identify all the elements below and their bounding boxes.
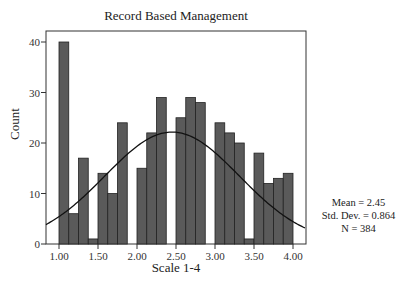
histogram-bar xyxy=(69,214,79,244)
histogram-plot: 010203040 1.001.502.002.503.003.504.00 xyxy=(0,0,407,288)
y-tick-label: 20 xyxy=(29,137,41,149)
histogram-bar xyxy=(118,123,128,244)
x-tick-label: 1.00 xyxy=(49,250,69,262)
n-stat: N = 384 xyxy=(310,222,407,235)
y-tick-label: 40 xyxy=(29,36,41,48)
x-tick-label: 1.50 xyxy=(88,250,108,262)
histogram-bar xyxy=(264,183,274,244)
histogram-bar xyxy=(79,158,89,244)
histogram-bar xyxy=(176,118,186,244)
histogram-bar xyxy=(196,103,206,244)
y-tick-label: 10 xyxy=(29,188,41,200)
y-tick-label: 30 xyxy=(29,87,41,99)
x-axis-label: Scale 1-4 xyxy=(126,260,226,276)
histogram-bar xyxy=(235,143,245,244)
histogram-bar xyxy=(186,98,196,244)
histogram-bar xyxy=(244,239,254,244)
x-tick-label: 4.00 xyxy=(283,250,303,262)
statistics-legend: Mean = 2.45 Std. Dev. = 0.864 N = 384 xyxy=(310,196,407,235)
histogram-bar xyxy=(108,194,118,245)
y-axis-label: Count xyxy=(7,108,23,140)
histogram-bar xyxy=(283,173,293,244)
histogram-bar xyxy=(88,239,98,244)
histogram-bar xyxy=(147,133,157,244)
histogram-bar xyxy=(225,133,235,244)
mean-stat: Mean = 2.45 xyxy=(310,196,407,209)
std-dev-stat: Std. Dev. = 0.864 xyxy=(310,209,407,222)
y-tick-label: 0 xyxy=(35,238,41,250)
histogram-bar xyxy=(215,123,225,244)
y-axis: 010203040 xyxy=(29,36,46,250)
histogram-bar xyxy=(157,98,167,244)
x-tick-label: 3.50 xyxy=(244,250,264,262)
histogram-bar xyxy=(98,173,108,244)
histogram-bar xyxy=(137,168,147,244)
